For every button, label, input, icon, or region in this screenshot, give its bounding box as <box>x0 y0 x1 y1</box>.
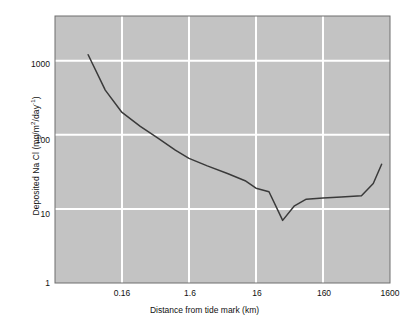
y-axis-title-mid: /day <box>31 105 41 121</box>
x-tick-label-16: 1.6 <box>167 288 213 298</box>
x-tick-label-160: 160 <box>301 288 347 298</box>
y-axis-title-sup-day: -1 <box>29 99 36 105</box>
y-tick-label-1: 1 <box>12 278 50 288</box>
y-tick-label-1000: 1000 <box>12 59 50 69</box>
x-tick-label-016: 0.16 <box>99 288 145 298</box>
x-tick-label-16b: 16 <box>234 288 280 298</box>
plot-background <box>55 16 390 283</box>
y-axis-title: Deposited Na Cl (mg/m2/day-1) <box>29 61 41 251</box>
y-tick-label-10: 10 <box>12 209 50 219</box>
y-axis-title-suffix: ) <box>31 96 41 99</box>
x-axis-title: Distance from tide mark (km) <box>0 305 409 315</box>
chart-figure: Deposited Na Cl (mg/m2/day-1) 1000 100 1… <box>0 0 409 326</box>
x-tick-label-1600: 1600 <box>367 288 409 298</box>
y-tick-label-100: 100 <box>12 135 50 145</box>
plot-canvas <box>0 0 409 326</box>
y-axis-title-sup-area: 2 <box>29 121 36 125</box>
